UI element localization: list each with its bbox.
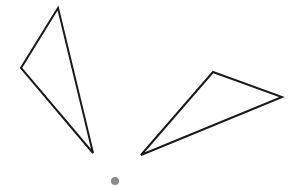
diagram-canvas — [0, 0, 303, 188]
triangle-right — [141, 72, 282, 155]
center-dot — [111, 177, 119, 185]
triangle-left — [21, 8, 93, 153]
